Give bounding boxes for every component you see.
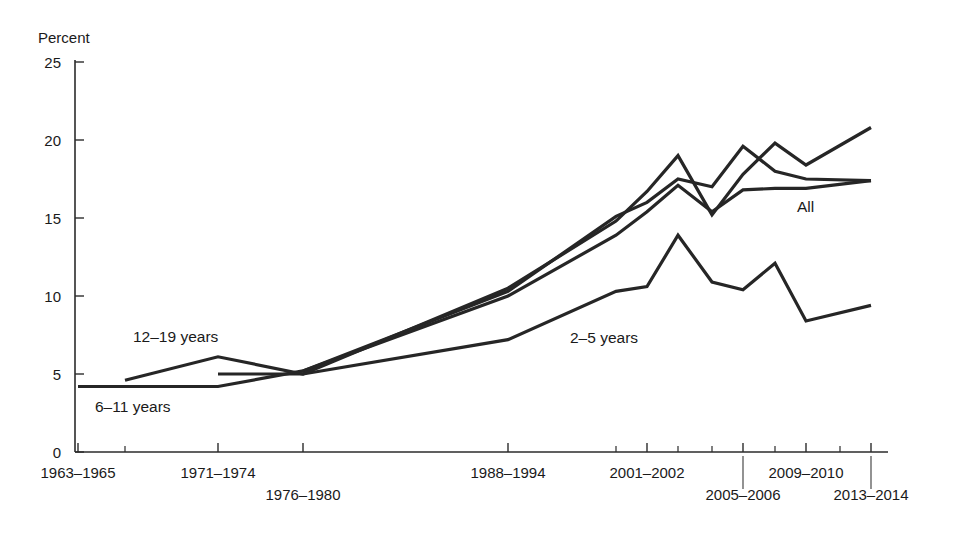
y-tick-label: 25	[44, 54, 61, 71]
y-axis-ticks	[75, 62, 84, 452]
series-line-2-5-years	[218, 235, 871, 374]
y-axis-tick-labels: 0510152025	[44, 54, 61, 461]
series-label-6-11: 6–11 years	[95, 398, 171, 415]
x-tick-label: 2001–2002	[609, 464, 684, 481]
y-tick-label: 5	[53, 366, 61, 383]
series-line-6-11-years	[78, 146, 871, 386]
data-series-group	[78, 128, 871, 387]
chart-container: Percent 0510152025 1963–19651971–1974197…	[0, 0, 953, 538]
x-tick-label: 1971–1974	[180, 464, 255, 481]
x-tick-label: 2005–2006	[705, 486, 780, 503]
y-tick-label: 10	[44, 288, 61, 305]
x-axis-ticks	[78, 443, 871, 452]
y-tick-label: 20	[44, 132, 61, 149]
x-tick-label: 1976–1980	[265, 486, 340, 503]
series-label-12-19: 12–19 years	[133, 328, 219, 345]
y-tick-label: 15	[44, 210, 61, 227]
series-label-2-5: 2–5 years	[570, 329, 638, 346]
x-tick-label: 1988–1994	[470, 464, 545, 481]
series-label-all: All	[797, 198, 814, 215]
x-tick-label: 2013–2014	[833, 486, 908, 503]
x-tick-label: 2009–2010	[768, 464, 843, 481]
x-tick-label: 1963–1965	[40, 464, 115, 481]
line-chart: Percent 0510152025 1963–19651971–1974197…	[0, 0, 953, 538]
y-axis-title: Percent	[38, 29, 91, 46]
x-axis-tick-labels: 1963–19651971–19741976–19801988–19942001…	[40, 464, 908, 503]
y-tick-label: 0	[53, 444, 61, 461]
series-annotation-group: 12–19 years6–11 years2–5 yearsAll	[95, 198, 814, 415]
